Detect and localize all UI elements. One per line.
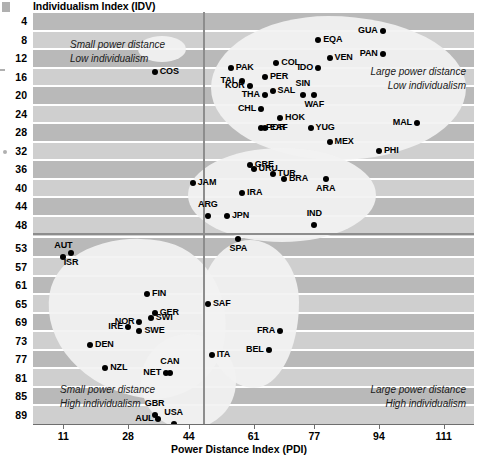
data-point-label: IRA: [247, 187, 262, 197]
data-point-label: YUG: [316, 122, 335, 132]
y-axis-tick-label: 77: [0, 353, 27, 365]
data-point-label: SWI: [156, 312, 173, 322]
data-point-label: THA: [242, 89, 260, 99]
x-axis-tick-label: 77: [294, 430, 334, 442]
data-point: [68, 250, 74, 256]
data-point-label: ISR: [64, 257, 79, 267]
quadrant-note-line: Low individualism: [70, 52, 165, 66]
data-point: [239, 190, 245, 196]
quadrant-note-bottom-right: Large power distance High individualism: [370, 383, 466, 411]
data-point-label: EAF: [270, 122, 288, 132]
data-point-label: FRA: [257, 325, 275, 335]
y-axis-tick-label: 53: [0, 242, 27, 254]
y-axis-tick-label: 73: [0, 335, 27, 347]
data-point: [376, 148, 382, 154]
quadrant-note-line: Large power distance: [370, 65, 466, 79]
y-axis-tick-label: 20: [0, 89, 27, 101]
individualism-vs-power-distance-scatter-chart: Individualism Index (IDV) Small power di…: [0, 0, 478, 460]
x-axis-tick-mark: [63, 424, 64, 429]
x-axis-tick-label: 111: [424, 430, 464, 442]
data-point: [327, 55, 333, 61]
data-point-label: FIN: [152, 288, 166, 298]
quadrant-note-line: High individualism: [60, 397, 155, 411]
quadrant-note-top-left: Small power distance Low individualism: [70, 38, 165, 66]
y-axis-tick-label: 69: [0, 316, 27, 328]
data-point: [281, 176, 287, 182]
y-axis-tick-label: 81: [0, 372, 27, 384]
data-point: [270, 88, 276, 94]
y-axis-tick-label: 36: [0, 163, 27, 175]
data-point: [380, 51, 386, 57]
x-axis-tick-label: 44: [169, 430, 209, 442]
y-axis-tick-label: 28: [0, 126, 27, 138]
x-axis-tick-label: 11: [43, 430, 83, 442]
data-point-label: CHL: [238, 103, 256, 113]
data-point-label: NZL: [110, 362, 127, 372]
x-axis-title: Power Distance Index (PDI): [0, 443, 478, 455]
data-point-label: IDO: [297, 62, 313, 72]
x-axis-tick-mark: [379, 424, 380, 429]
data-point-label: SPA: [230, 243, 248, 253]
data-point: [308, 125, 314, 131]
data-point-label: VEN: [335, 52, 353, 62]
plot-area: Small power distance Low individualism L…: [33, 12, 474, 424]
data-point-label: ARG: [198, 199, 218, 209]
data-point: [148, 315, 154, 321]
data-point: [380, 28, 386, 34]
data-point-label: COS: [160, 66, 179, 76]
x-axis-tick-label: 94: [359, 430, 399, 442]
data-point-label: PAN: [360, 48, 378, 58]
data-point-label: EQA: [323, 34, 342, 44]
data-point-label: AUL: [135, 413, 153, 423]
x-axis-tick-label: 61: [234, 430, 274, 442]
cluster-blob-latin-middle-east: [188, 148, 376, 242]
data-point-label: SWE: [144, 325, 164, 335]
y-axis-tick-label: 61: [0, 279, 27, 291]
data-point: [152, 69, 158, 75]
data-point-label: PAK: [236, 62, 254, 72]
data-point-label: JAM: [198, 177, 217, 187]
y-axis-tick-label: 57: [0, 261, 27, 273]
x-axis-tick-mark: [314, 424, 315, 429]
data-point-label: CAN: [160, 356, 179, 366]
x-axis-tick-mark: [128, 424, 129, 429]
y-axis-tick-label: 4: [0, 15, 27, 27]
data-point: [315, 65, 321, 71]
data-point: [205, 213, 211, 219]
vertical-quadrant-divider: [203, 12, 205, 424]
data-point: [323, 176, 329, 182]
data-point-label: USA: [164, 407, 183, 417]
data-point-label: PHI: [384, 145, 399, 155]
y-axis-tick-label: 8: [0, 34, 27, 46]
data-point-label: IND: [307, 208, 322, 218]
x-axis-tick-mark: [189, 424, 190, 429]
data-point: [266, 347, 272, 353]
data-point-label: BEL: [246, 344, 264, 354]
y-axis-title: Individualism Index (IDV): [33, 0, 155, 12]
data-point-label: GUA: [358, 25, 378, 35]
data-point-label: WAF: [304, 99, 324, 109]
data-point: [247, 83, 253, 89]
data-point-label: JPN: [232, 210, 249, 220]
data-point: [327, 139, 333, 145]
data-point: [270, 171, 276, 177]
y-axis-tick-label: 24: [0, 108, 27, 120]
data-point: [224, 213, 230, 219]
data-point: [315, 37, 321, 43]
data-point: [228, 65, 234, 71]
y-axis-tick-label: 65: [0, 298, 27, 310]
x-axis-tick-mark: [444, 424, 445, 429]
x-axis-tick-mark: [254, 424, 255, 429]
data-point-label: AUT: [54, 240, 72, 250]
quadrant-note-line: High individualism: [370, 397, 466, 411]
data-point: [251, 166, 257, 172]
data-point-label: IRE: [108, 321, 123, 331]
data-point-label: PER: [270, 71, 288, 81]
scan-artifact: [2, 2, 10, 12]
y-axis-tick-label: 89: [0, 409, 27, 421]
data-point: [262, 125, 268, 131]
gridline: [33, 12, 474, 13]
quadrant-note-bottom-left: Small power distance High individualism: [60, 383, 155, 411]
data-point: [209, 352, 215, 358]
y-axis-tick-label: 48: [0, 219, 27, 231]
